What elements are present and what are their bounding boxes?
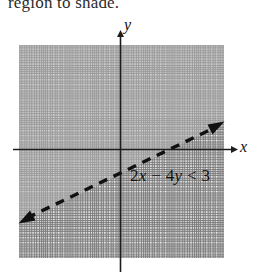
coordinate-plane xyxy=(19,45,224,258)
inequality-graph-figure: region to shade. y x 2x − 4y < 3 xyxy=(0,0,259,273)
inequality-rhs-coef: 4 xyxy=(166,166,175,185)
inequality-constant: 3 xyxy=(201,166,210,185)
inequality-lhs-var: x xyxy=(139,166,147,185)
inequality-label: 2x − 4y < 3 xyxy=(130,166,210,186)
inequality-relation: < xyxy=(187,166,197,185)
figure-caption: region to shade. xyxy=(8,0,208,12)
inequality-lhs-coef: 2 xyxy=(130,166,139,185)
inequality-rhs-var: y xyxy=(175,166,183,185)
x-axis-label: x xyxy=(240,138,247,156)
inequality-minus: − xyxy=(151,166,161,185)
y-axis-label: y xyxy=(124,16,131,34)
